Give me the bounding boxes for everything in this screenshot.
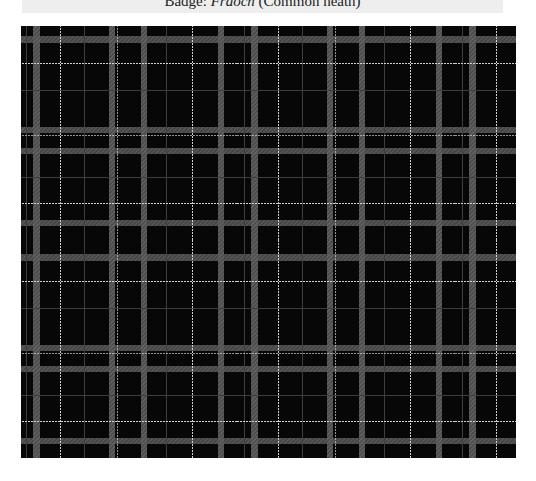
tartan-pattern-image bbox=[21, 26, 516, 458]
caption-plant-name: Fraoch bbox=[211, 0, 255, 9]
badge-caption: Badge: Fraoch (Common heath) bbox=[22, 0, 503, 13]
caption-suffix: (Common heath) bbox=[255, 0, 361, 9]
caption-prefix: Badge: bbox=[164, 0, 210, 9]
tartan-swatch bbox=[21, 26, 516, 458]
